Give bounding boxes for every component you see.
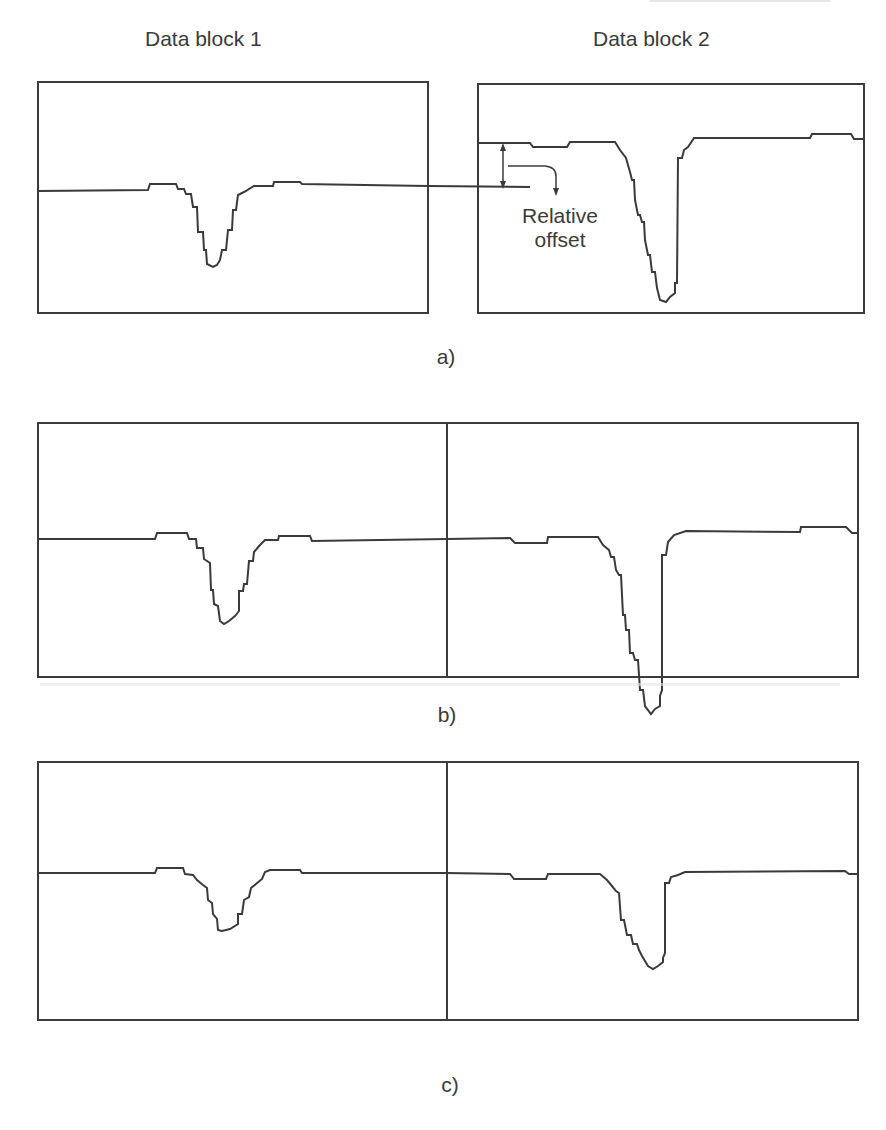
offset-arrow-down-icon [500,181,506,189]
panel-b [38,423,858,714]
caption-a: a) [437,345,456,369]
panel-a [38,82,864,313]
figure-canvas [0,0,886,1130]
block2-frame [478,84,864,313]
block1-trace [38,182,530,267]
relative-offset-label: Relative offset [510,204,610,252]
caption-b: b) [438,703,457,727]
scan-smudge [40,683,840,686]
offset-bent-arrowhead-icon [553,188,559,196]
caption-c: c) [441,1073,459,1097]
relative-offset-line1: Relative [510,204,610,228]
relative-offset-line2: offset [510,228,610,252]
panel-c [38,762,858,1020]
block1-frame [38,82,428,313]
offset-arrow-up-icon [500,143,506,151]
